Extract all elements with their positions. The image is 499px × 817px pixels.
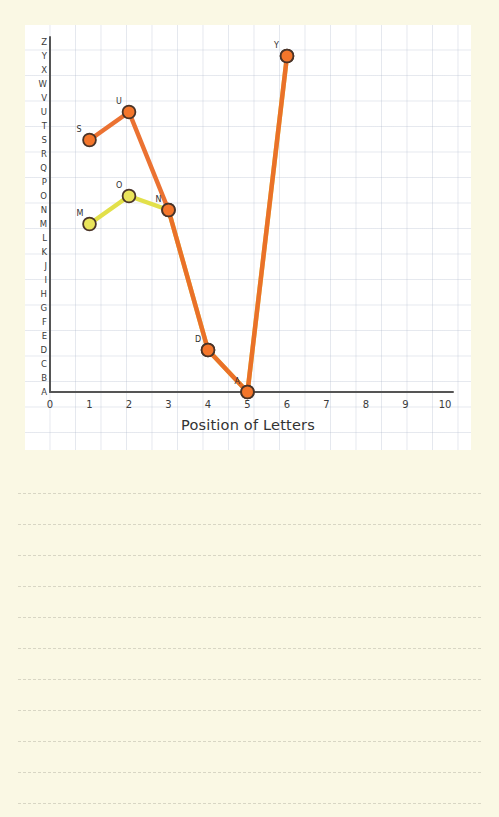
note-rule-line xyxy=(18,679,481,680)
x-tick-label-7: 7 xyxy=(316,399,338,410)
note-rule-line xyxy=(18,741,481,742)
x-tick-label-9: 9 xyxy=(395,399,417,410)
worksheet-page: ZYXWVUTSRQPONMLKJIHGFEDCBA 012345678910 … xyxy=(0,0,499,817)
x-tick-label-4: 4 xyxy=(197,399,219,410)
point-label-o-7: O xyxy=(116,181,122,190)
note-rule-line xyxy=(18,493,481,494)
point-label-d-3: D xyxy=(195,335,201,344)
x-tick-label-0: 0 xyxy=(39,399,61,410)
point-label-m-6: M xyxy=(77,209,84,218)
point-label-n-2: N xyxy=(156,195,162,204)
point-label-a-4: A xyxy=(235,377,240,386)
note-rule-line xyxy=(18,617,481,618)
note-rule-line xyxy=(18,555,481,556)
note-rule-line xyxy=(18,710,481,711)
x-tick-label-6: 6 xyxy=(276,399,298,410)
note-rule-line xyxy=(18,586,481,587)
graph-paper-panel: ZYXWVUTSRQPONMLKJIHGFEDCBA 012345678910 … xyxy=(25,25,471,450)
ruled-note-lines xyxy=(0,455,499,817)
x-tick-label-10: 10 xyxy=(434,399,456,410)
note-rule-line xyxy=(18,772,481,773)
note-rule-line xyxy=(18,524,481,525)
data-point-sunday-u[interactable] xyxy=(123,106,136,119)
series-line-sunday xyxy=(90,56,288,392)
x-axis-title: Position of Letters xyxy=(25,417,471,433)
series-line-monday xyxy=(90,56,288,392)
line-plot xyxy=(25,25,471,450)
x-tick-label-2: 2 xyxy=(118,399,140,410)
x-tick-label-3: 3 xyxy=(158,399,180,410)
data-point-sunday-y[interactable] xyxy=(281,50,294,63)
x-tick-label-8: 8 xyxy=(355,399,377,410)
point-label-s-0: S xyxy=(77,125,82,134)
note-rule-line xyxy=(18,648,481,649)
data-point-monday-o[interactable] xyxy=(123,190,136,203)
point-label-y-5: Y xyxy=(274,41,279,50)
x-tick-label-5: 5 xyxy=(237,399,259,410)
data-point-sunday-s[interactable] xyxy=(83,134,96,147)
data-point-sunday-a[interactable] xyxy=(241,386,254,399)
chart-area: ZYXWVUTSRQPONMLKJIHGFEDCBA 012345678910 … xyxy=(25,25,471,450)
note-rule-line xyxy=(18,803,481,804)
point-label-u-1: U xyxy=(116,97,122,106)
x-tick-label-1: 1 xyxy=(79,399,101,410)
data-point-monday-m[interactable] xyxy=(83,218,96,231)
data-point-sunday-n[interactable] xyxy=(162,204,175,217)
data-point-sunday-d[interactable] xyxy=(202,344,215,357)
